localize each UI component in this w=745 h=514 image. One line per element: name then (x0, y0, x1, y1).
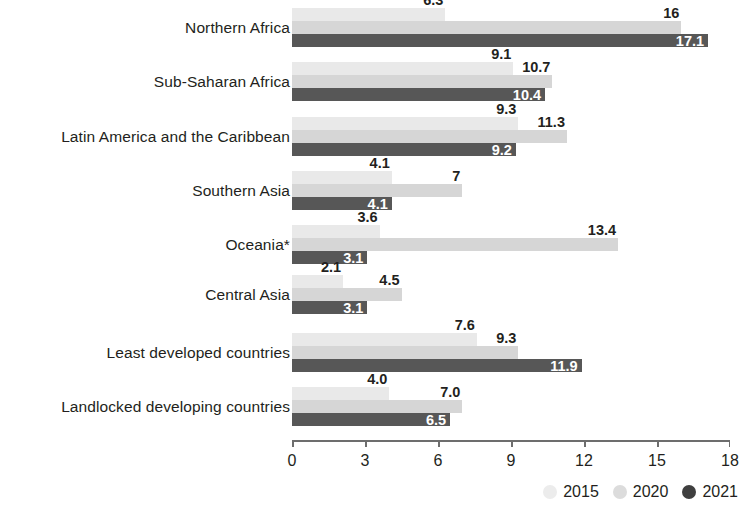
x-axis-tick-label: 3 (361, 452, 370, 470)
x-axis-tick (657, 440, 659, 447)
x-axis-tick-label: 6 (434, 452, 443, 470)
bar-2021[interactable] (292, 88, 545, 101)
bar-2021[interactable] (292, 359, 582, 372)
bar-value-label: 11.3 (538, 115, 565, 131)
bar-value-label: 13.4 (588, 223, 616, 239)
legend-label: 2021 (702, 483, 738, 501)
bar-value-label: 7 (452, 169, 460, 185)
category-label: Sub-Saharan Africa (0, 73, 290, 90)
circle-swatch-2020 (613, 485, 627, 499)
bar-value-label: 4.5 (379, 273, 399, 289)
bar-value-label: 10.7 (522, 60, 550, 76)
bar-value-label: 7.0 (440, 385, 460, 401)
x-axis-tick-label: 0 (288, 452, 297, 470)
category-label: Central Asia (0, 286, 290, 303)
bar-2015[interactable] (292, 225, 380, 238)
bar-value-label: 9.3 (496, 331, 516, 347)
legend-label: 2020 (633, 483, 669, 501)
category-label: Latin America and the Caribbean (0, 128, 290, 145)
bar-chart: Northern Africa6.31617.1Sub-Saharan Afri… (0, 0, 745, 514)
category-label: Southern Asia (0, 182, 290, 199)
x-axis-line: 0369121518 (292, 440, 730, 442)
x-axis-tick-label: 18 (721, 452, 739, 470)
bar-2020[interactable] (292, 130, 567, 143)
bar-2015[interactable] (292, 171, 392, 184)
bar-value-label: 4.0 (367, 372, 387, 388)
bar-2015[interactable] (292, 387, 389, 400)
chart-legend: 201520202021 (0, 483, 738, 501)
bar-value-label: 9.1 (491, 47, 511, 63)
x-axis-tick (511, 440, 513, 447)
bar-value-label: 16 (663, 6, 679, 22)
bar-2020[interactable] (292, 21, 681, 34)
x-axis-tick (292, 440, 294, 447)
bar-2020[interactable] (292, 238, 618, 251)
bar-2015[interactable] (292, 117, 518, 130)
circle-swatch-2015 (543, 485, 557, 499)
category-label: Oceania* (0, 236, 290, 253)
legend-item-2020[interactable]: 2020 (613, 483, 669, 501)
x-axis-tick (729, 440, 731, 447)
category-label: Northern Africa (0, 19, 290, 36)
category-label: Landlocked developing countries (0, 398, 290, 415)
bar-value-label: 3.1 (343, 250, 367, 265)
bar-value-label: 9.2 (492, 142, 516, 157)
bar-2020[interactable] (292, 346, 518, 359)
legend-label: 2015 (563, 483, 599, 501)
bar-value-label: 7.6 (455, 318, 475, 334)
bar-value-label: 6.3 (423, 0, 443, 8)
x-axis-tick (438, 440, 440, 447)
circle-swatch-2021 (682, 485, 696, 499)
category-label: Least developed countries (0, 344, 290, 361)
x-axis-tick (584, 440, 586, 447)
x-axis-tick-label: 15 (648, 452, 666, 470)
bar-value-label: 17.1 (676, 33, 708, 48)
x-axis-tick (365, 440, 367, 447)
bar-value-label: 4.1 (370, 156, 390, 172)
bar-value-label: 11.9 (550, 358, 581, 373)
bar-value-label: 2.1 (321, 260, 341, 276)
bar-value-label: 10.4 (513, 87, 545, 102)
bar-value-label: 3.1 (343, 300, 367, 315)
bar-2015[interactable] (292, 275, 343, 288)
bar-2021[interactable] (292, 143, 516, 156)
bar-value-label: 9.3 (496, 102, 516, 118)
bar-2015[interactable] (292, 333, 477, 346)
legend-item-2015[interactable]: 2015 (543, 483, 599, 501)
bar-value-label: 3.6 (357, 210, 377, 226)
plot-area: Northern Africa6.31617.1Sub-Saharan Afri… (0, 0, 745, 440)
x-axis-tick-label: 12 (575, 452, 593, 470)
bar-2015[interactable] (292, 8, 445, 21)
legend-item-2021[interactable]: 2021 (682, 483, 738, 501)
bar-value-label: 6.5 (426, 412, 450, 427)
bar-2015[interactable] (292, 62, 513, 75)
x-axis-tick-label: 9 (507, 452, 516, 470)
